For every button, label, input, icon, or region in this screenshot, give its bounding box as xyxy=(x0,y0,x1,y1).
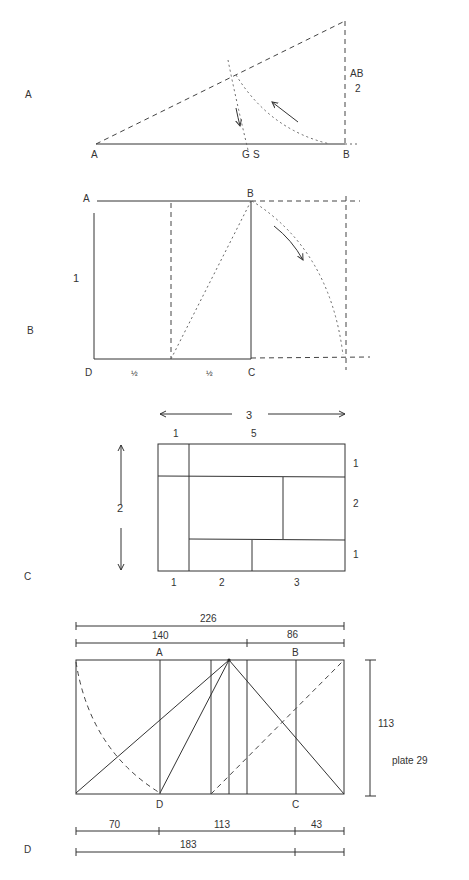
point-a: A xyxy=(156,647,163,658)
section-label-d: D xyxy=(24,844,31,855)
right-label-1: 1 xyxy=(353,458,359,469)
row-divider-top xyxy=(158,476,345,477)
ext-bottom xyxy=(251,357,370,358)
dim-113: 113 xyxy=(214,819,230,830)
apex-point xyxy=(227,658,230,661)
arrow-icon xyxy=(274,226,303,260)
top-span: 3 xyxy=(246,409,252,421)
bottom-label-1: 1 xyxy=(171,577,177,588)
right-label-2: 2 xyxy=(353,498,359,509)
section-label-a: A xyxy=(25,89,32,100)
dim-70: 70 xyxy=(109,819,121,830)
dim-43: 43 xyxy=(311,819,323,830)
dim-right: 86 xyxy=(287,629,299,640)
left-span: 2 xyxy=(117,502,123,514)
figure-d: D 226 140 86 A B D C 113 xyxy=(24,613,394,856)
section-label-b: B xyxy=(27,325,34,336)
top-label-5: 5 xyxy=(251,428,257,439)
point-b: B xyxy=(292,647,299,658)
point-s: S xyxy=(253,149,260,160)
dim-left: 140 xyxy=(152,630,169,641)
arc-s xyxy=(236,75,330,144)
figure-b: B A B D C 1 ½ ½ xyxy=(27,188,370,378)
corner-b: B xyxy=(247,188,254,199)
point-a: A xyxy=(91,149,98,160)
point-d: D xyxy=(156,799,163,810)
half-left: ½ xyxy=(131,369,138,378)
arrow-down-icon xyxy=(236,108,240,126)
dim-183-label: 183 xyxy=(180,839,197,850)
right-label-3: 1 xyxy=(353,549,359,560)
label-ab: AB xyxy=(350,68,364,79)
half-right: ½ xyxy=(206,369,213,378)
diagonal xyxy=(171,201,251,359)
quarter-arc xyxy=(76,662,160,793)
bottom-label-2: 2 xyxy=(219,577,225,588)
plate-label: plate 29 xyxy=(392,755,428,766)
row-divider-bottom xyxy=(189,539,345,540)
point-c: C xyxy=(292,799,299,810)
plate-diagram: A A G S B AB 2 B A B D C 1 ½ ½ xyxy=(0,0,469,880)
point-b: B xyxy=(343,149,350,160)
label-2: 2 xyxy=(355,83,361,94)
side-label: 1 xyxy=(73,272,79,284)
dim-total: 226 xyxy=(200,613,217,624)
corner-c: C xyxy=(248,367,255,378)
point-g: G xyxy=(242,149,250,160)
main-rect xyxy=(76,660,344,794)
top-label-1: 1 xyxy=(173,428,179,439)
corner-d: D xyxy=(85,367,92,378)
figure-a: A A G S B AB 2 xyxy=(25,21,364,160)
bottom-label-3: 3 xyxy=(294,577,300,588)
arc xyxy=(252,201,343,355)
dim-height-label: 113 xyxy=(378,718,394,729)
hypotenuse xyxy=(96,21,345,144)
arc-g xyxy=(228,60,248,150)
figure-c: C 3 2 1 5 1 2 1 1 2 3 xyxy=(24,409,359,588)
corner-a: A xyxy=(83,193,90,204)
arrow-up-icon xyxy=(272,102,298,122)
section-label-c: C xyxy=(24,571,31,582)
